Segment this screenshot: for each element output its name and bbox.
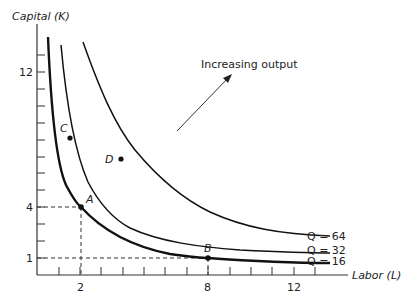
x-tick-label-12: 12 xyxy=(287,281,301,294)
point-b-label: B xyxy=(204,242,212,255)
q16-label: Q = 16 xyxy=(307,255,346,268)
x-tick-label-2: 2 xyxy=(77,281,84,294)
y-ticks xyxy=(37,55,45,258)
point-a xyxy=(78,204,84,210)
q64-label: Q = 64 xyxy=(307,230,346,243)
reference-lines xyxy=(37,207,208,275)
point-b xyxy=(205,255,211,261)
annotation-increasing-output: Increasing output xyxy=(201,58,298,71)
point-d-label: D xyxy=(105,153,113,166)
y-tick-label-12: 12 xyxy=(19,66,33,79)
isoquant-q32 xyxy=(61,45,330,253)
x-tick-label-8: 8 xyxy=(204,281,211,294)
y-tick-label-4: 4 xyxy=(26,201,33,214)
isoquant-q64 xyxy=(83,42,330,236)
point-c xyxy=(67,135,72,140)
point-d xyxy=(118,156,123,161)
x-ticks xyxy=(59,267,315,275)
point-a-label: A xyxy=(85,193,94,206)
x-axis-title: Labor (L) xyxy=(352,269,401,282)
increasing-output-arrow xyxy=(177,77,229,131)
y-tick-label-1: 1 xyxy=(26,252,33,265)
y-axis-title: Capital (K) xyxy=(12,10,70,23)
isoquant-diagram: Increasing output A B C D Q = 64 Q = 32 … xyxy=(0,0,418,306)
point-c-label: C xyxy=(60,122,68,135)
